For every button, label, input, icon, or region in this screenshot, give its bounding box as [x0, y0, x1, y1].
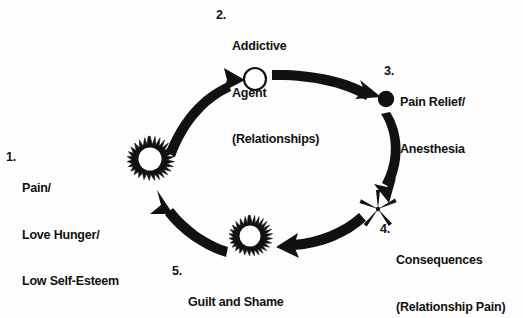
label-node-2-line-1: Addictive	[232, 39, 319, 55]
label-node-1-line-1: Pain/	[22, 181, 119, 197]
label-node-4-line-1: Consequences	[396, 253, 505, 269]
label-node-4-number: 4.	[380, 222, 396, 238]
label-node-1-text: Pain/ Love Hunger/ Low Self-Esteem	[22, 150, 119, 318]
label-node-3-number: 3.	[384, 64, 400, 80]
arrow-4-to-5	[276, 213, 366, 258]
label-node-5-text: Guilt and Shame	[188, 264, 284, 318]
arrow-5-to-1	[150, 190, 228, 257]
label-node-2: 2. Addictive Agent (Relationships)	[216, 8, 319, 179]
label-node-5-number: 5.	[172, 264, 188, 280]
label-node-3-text: Pain Relief/ Anesthesia	[400, 64, 465, 188]
label-node-2-number: 2.	[216, 8, 232, 24]
label-node-1-line-3: Low Self-Esteem	[22, 274, 119, 290]
label-node-3: 3. Pain Relief/ Anesthesia	[384, 64, 465, 188]
label-node-2-line-3: (Relationships)	[232, 132, 319, 148]
node-5-starburst-icon	[229, 215, 273, 256]
label-node-3-line-2: Anesthesia	[400, 142, 465, 158]
label-node-1-line-2: Love Hunger/	[22, 228, 119, 244]
label-node-4: 4. Consequences (Relationship Pain)	[380, 222, 505, 318]
label-node-4-text: Consequences (Relationship Pain)	[396, 222, 505, 318]
label-node-2-text: Addictive Agent (Relationships)	[232, 8, 319, 179]
label-node-2-line-2: Agent	[232, 86, 319, 102]
label-node-1: 1. Pain/ Love Hunger/ Low Self-Esteem	[6, 150, 119, 318]
node-1-starburst-icon	[127, 136, 174, 180]
label-node-5-line-1: Guilt and Shame	[188, 295, 284, 311]
label-node-4-line-2: (Relationship Pain)	[396, 300, 505, 316]
label-node-3-line-1: Pain Relief/	[400, 95, 465, 111]
label-node-5: 5. Guilt and Shame	[172, 264, 284, 318]
label-node-1-number: 1.	[6, 150, 22, 166]
